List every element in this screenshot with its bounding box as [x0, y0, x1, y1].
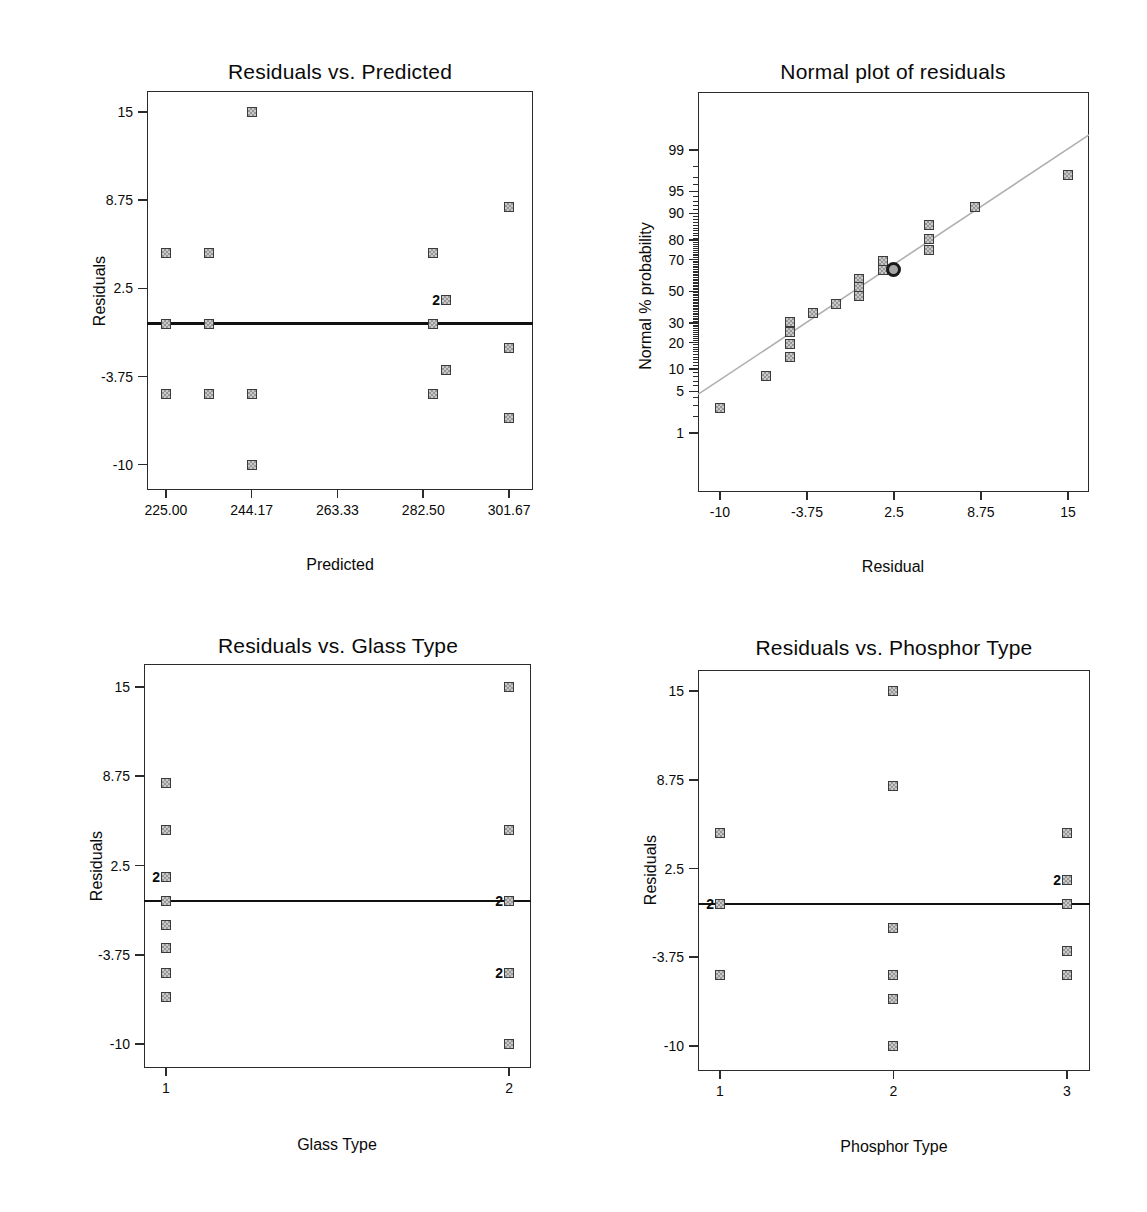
figure-page: { "figure": { "description_titles": ["Re…: [0, 0, 1147, 1212]
y-tick-mark: [689, 779, 698, 781]
replicate-count-label: 2: [1053, 872, 1061, 888]
data-point-marker: [1062, 970, 1072, 980]
chart-residuals-vs-phosphor-type: Residuals vs. Phosphor TypeResidualsPhos…: [0, 0, 1147, 1212]
data-point-marker: [1062, 828, 1072, 838]
data-point-marker: [888, 686, 898, 696]
data-point-marker: [888, 970, 898, 980]
data-point-marker: [715, 899, 725, 909]
zero-residual-line: [698, 903, 1090, 905]
y-tick-mark: [689, 690, 698, 692]
y-tick-mark: [689, 956, 698, 958]
y-tick-mark: [689, 1045, 698, 1047]
data-point-marker: [888, 994, 898, 1004]
replicate-count-label: 2: [706, 896, 714, 912]
y-tick-label: 15: [668, 683, 684, 699]
x-tick-label: 2: [890, 1083, 898, 1099]
x-tick-label: 3: [1063, 1083, 1071, 1099]
y-tick-label: 8.75: [657, 772, 684, 788]
y-tick-mark: [689, 868, 698, 870]
y-tick-label: -3.75: [652, 949, 684, 965]
y-tick-label: -10: [664, 1038, 684, 1054]
data-point-marker: [715, 970, 725, 980]
data-point-marker: [888, 781, 898, 791]
x-tick-mark: [719, 1071, 721, 1079]
plot-area: [698, 670, 1090, 1071]
x-tick-mark: [1066, 1071, 1068, 1079]
data-point-marker: [1062, 875, 1072, 885]
y-tick-label: 2.5: [665, 861, 684, 877]
data-point-marker: [715, 828, 725, 838]
data-point-marker: [1062, 946, 1072, 956]
data-point-marker: [888, 1041, 898, 1051]
x-tick-label: 1: [716, 1083, 724, 1099]
x-tick-mark: [893, 1071, 895, 1079]
y-axis-label: Residuals: [642, 835, 660, 905]
data-point-marker: [888, 923, 898, 933]
data-point-marker: [1062, 899, 1072, 909]
x-axis-label: Phosphor Type: [840, 1138, 947, 1156]
plot-title: Residuals vs. Phosphor Type: [756, 636, 1033, 660]
